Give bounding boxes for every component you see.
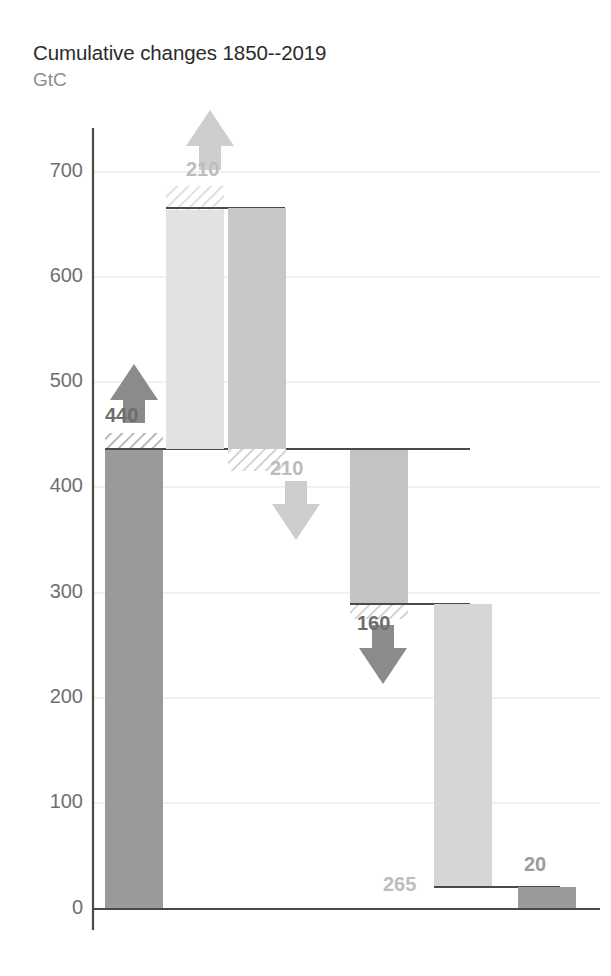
bar-budget-imbalance	[518, 887, 576, 909]
y-tick-200: 200	[50, 685, 83, 707]
y-tick-500: 500	[50, 369, 83, 391]
y-tick-700: 700	[50, 159, 83, 181]
y-axis-tick-labels: 700 600 500 400 300 200 100 0	[50, 159, 83, 918]
bar-atmospheric-increase	[228, 208, 286, 471]
y-tick-0: 0	[72, 896, 83, 918]
value-label-265: 265	[383, 873, 416, 895]
chart-figure: Cumulative changes 1850--2019 GtC	[0, 0, 611, 976]
bar-fossil-fuel-emissions	[105, 433, 358, 909]
value-label-20: 20	[524, 853, 546, 875]
y-tick-600: 600	[50, 264, 83, 286]
arrow-down-atmospheric-increase	[272, 481, 320, 540]
value-label-440: 440	[105, 404, 138, 426]
y-tick-100: 100	[50, 790, 83, 812]
value-label-210-up: 210	[186, 158, 219, 180]
y-tick-300: 300	[50, 580, 83, 602]
y-tick-400: 400	[50, 474, 83, 496]
waterfall-plot: 700 600 500 400 300 200 100 0	[0, 0, 611, 976]
value-label-210-down: 210	[270, 457, 303, 479]
bar-land-sink	[434, 604, 560, 887]
value-label-160: 160	[357, 612, 390, 634]
